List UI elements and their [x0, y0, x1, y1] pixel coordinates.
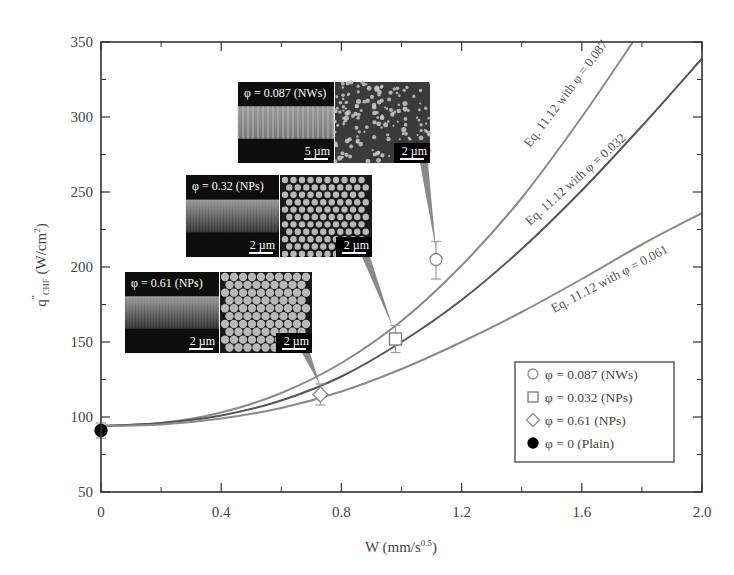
legend-item: φ = 0.087 (NWs) — [528, 367, 638, 382]
circle-marker — [430, 254, 442, 266]
scale-bar-label: 2 µm — [190, 334, 216, 348]
curve-label: Eq. 11.12 with φ = 0.061 — [548, 241, 670, 315]
inset-pointer — [420, 163, 436, 250]
y-tick-label: 350 — [71, 34, 94, 50]
y-tick-label: 300 — [71, 109, 94, 125]
x-tick-label: 0 — [97, 504, 105, 520]
square-marker — [528, 392, 538, 402]
x-axis-title: W (mm/s0.5) — [365, 538, 437, 556]
inset-caption: φ = 0.61 (NPs) — [131, 276, 203, 290]
x-tick-label: 1.2 — [452, 504, 471, 520]
square-marker — [389, 333, 401, 345]
x-tick-label: 0.8 — [332, 504, 351, 520]
y-tick-label: 250 — [71, 184, 94, 200]
y-tick-label: 50 — [78, 484, 93, 500]
scale-bar-label: 2 µm — [284, 334, 310, 348]
circle-marker — [528, 369, 538, 379]
sem-inset: φ = 0.61 (NPs)2 µm2 µm — [125, 272, 312, 353]
inset-caption: φ = 0.32 (NPs) — [192, 179, 264, 193]
sem-insets: φ = 0.087 (NWs)5 µm2 µmφ = 0.32 (NPs)2 µ… — [125, 80, 432, 353]
filled-circle-marker — [528, 438, 538, 448]
y-tick-label: 200 — [71, 259, 94, 275]
scale-bar-label: 5 µm — [305, 144, 331, 158]
chq-vs-wicking-chart: φ = 0.087 (NWs)5 µm2 µmφ = 0.32 (NPs)2 µ… — [0, 0, 734, 575]
legend-label: φ = 0.61 (NPs) — [545, 413, 626, 428]
legend-label: φ = 0.087 (NWs) — [545, 367, 638, 382]
y-tick-label: 150 — [71, 334, 94, 350]
scale-bar-label: 2 µm — [402, 144, 428, 158]
legend-label: φ = 0.032 (NPs) — [545, 390, 632, 405]
y-tick-label: 100 — [71, 409, 94, 425]
inset-pointer — [362, 257, 393, 328]
scale-bar-label: 2 µm — [250, 238, 276, 252]
sem-inset: φ = 0.32 (NPs)2 µm2 µm — [186, 175, 372, 257]
x-tick-label: 1.6 — [572, 504, 591, 520]
legend: φ = 0.087 (NWs)φ = 0.032 (NPs)φ = 0.61 (… — [515, 362, 674, 462]
scale-bar-label: 2 µm — [344, 238, 370, 252]
x-tick-label: 2.0 — [693, 504, 712, 520]
legend-label: φ = 0 (Plain) — [545, 436, 614, 451]
inset-caption: φ = 0.087 (NWs) — [244, 86, 326, 100]
y-axis-title: q"CHF(W/cm2) — [30, 223, 51, 306]
x-tick-label: 0.4 — [212, 504, 231, 520]
sem-inset: φ = 0.087 (NWs)5 µm2 µm — [238, 80, 432, 164]
curve-label: Eq. 11.12 with φ = 0.032 — [522, 130, 629, 228]
